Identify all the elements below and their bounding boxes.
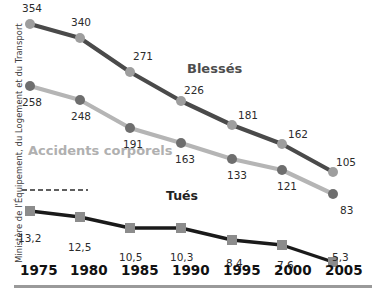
series-label-tues: Tués xyxy=(166,188,198,203)
series-label-accidents-corporels: Accidents corporels xyxy=(28,143,173,158)
x-axis-tick: 2005 xyxy=(325,262,363,278)
data-label: 354 xyxy=(22,2,42,14)
data-label: 83 xyxy=(340,204,353,216)
data-label: 163 xyxy=(175,153,195,165)
bottom-divider-rule xyxy=(14,285,372,288)
x-axis-tick: 1985 xyxy=(121,262,159,278)
data-label: 12,5 xyxy=(68,241,91,253)
series-label-blesses: Blessés xyxy=(187,61,242,76)
data-label: 105 xyxy=(336,156,356,168)
data-label: 133 xyxy=(227,169,247,181)
x-axis-tick: 1990 xyxy=(172,262,210,278)
data-label: 13,2 xyxy=(18,232,41,244)
data-label: 340 xyxy=(71,16,91,28)
x-axis-tick: 1980 xyxy=(70,262,108,278)
data-label: 226 xyxy=(184,84,204,96)
x-axis-tick: 1975 xyxy=(20,262,58,278)
data-label: 162 xyxy=(288,128,308,140)
data-label: 271 xyxy=(133,50,153,62)
data-label: 258 xyxy=(22,96,42,108)
chart-container: Ministère de l'Équipement, du Logement e… xyxy=(0,0,372,294)
data-label: 121 xyxy=(277,180,297,192)
x-axis-tick: 2000 xyxy=(274,262,312,278)
data-label: 248 xyxy=(71,110,91,122)
x-axis-tick: 1995 xyxy=(223,262,261,278)
data-label: 181 xyxy=(238,109,258,121)
